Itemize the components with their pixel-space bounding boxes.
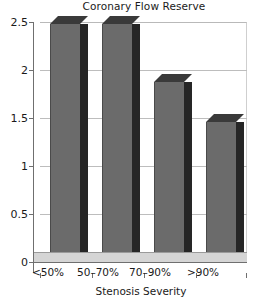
plot-area bbox=[33, 22, 247, 263]
plot-floor bbox=[33, 252, 247, 263]
x-axis-title: Stenosis Severity bbox=[30, 285, 252, 297]
bar-column[interactable] bbox=[154, 74, 184, 252]
y-axis-tick bbox=[29, 262, 34, 263]
bar-front-face bbox=[154, 82, 184, 252]
x-axis-category-label: 50–70% bbox=[70, 267, 126, 278]
y-axis-line bbox=[33, 22, 34, 273]
y-axis-tick-label: 2 bbox=[21, 65, 28, 76]
bar-column[interactable] bbox=[50, 16, 80, 252]
x-axis-tick bbox=[246, 273, 247, 278]
x-axis-category-label: <50% bbox=[22, 267, 74, 278]
y-axis-tick bbox=[29, 214, 34, 215]
y-axis-tick-label: 1 bbox=[21, 161, 28, 172]
bar-side-face bbox=[132, 24, 140, 252]
chart-container: Coronary Flow Reserve 2.5 2 1.5 1 0.5 0 bbox=[0, 0, 258, 299]
bar-side-face bbox=[236, 122, 244, 252]
x-axis-category-label: >90% bbox=[177, 267, 229, 278]
bar-column[interactable] bbox=[206, 114, 236, 252]
x-axis-category-label: 70–90% bbox=[122, 267, 178, 278]
y-axis-labels: 2.5 2 1.5 1 0.5 0 bbox=[0, 0, 28, 299]
bar-column[interactable] bbox=[102, 16, 132, 252]
y-axis-tick bbox=[29, 22, 34, 23]
bar-front-face bbox=[102, 24, 132, 252]
bar-front-face bbox=[206, 122, 236, 252]
bar-side-face bbox=[80, 24, 88, 252]
y-axis-tick-label: 1.5 bbox=[11, 113, 29, 124]
y-axis-tick bbox=[29, 118, 34, 119]
y-axis-tick-label: 0.5 bbox=[11, 209, 29, 220]
y-axis-tick bbox=[29, 70, 34, 71]
bar-front-face bbox=[50, 24, 80, 252]
y-axis-tick bbox=[29, 166, 34, 167]
bar-side-face bbox=[184, 82, 192, 252]
chart-title: Coronary Flow Reserve bbox=[30, 0, 258, 12]
y-axis-tick-label: 2.5 bbox=[11, 17, 29, 28]
